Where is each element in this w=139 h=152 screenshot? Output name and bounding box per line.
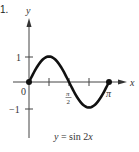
equation-label: y = sin 2x	[53, 131, 93, 142]
sine-graph: y x 0 1 −1 π 2 π y = sin 2x	[0, 0, 139, 152]
pi-half-numerator: π	[66, 90, 70, 98]
y-axis-arrow-icon	[27, 18, 32, 27]
y-label-1: 1	[16, 52, 21, 63]
pi-label: π	[106, 88, 112, 99]
endpoint-pi	[106, 79, 112, 85]
y-label-neg1: −1	[9, 104, 20, 115]
y-axis-label: y	[25, 5, 31, 16]
endpoint-origin	[26, 79, 32, 85]
origin-label: 0	[21, 86, 26, 97]
pi-half-denominator: 2	[67, 98, 71, 106]
x-axis-label: x	[129, 77, 135, 88]
x-axis-arrow-icon	[118, 80, 127, 85]
